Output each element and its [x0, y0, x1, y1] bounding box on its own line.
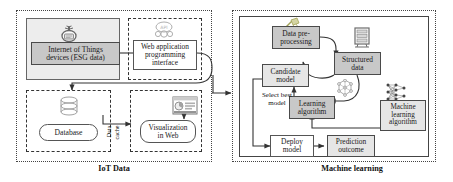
deploy-model-line2: model — [283, 145, 301, 154]
web-api-line3: interface — [152, 58, 178, 67]
caption-iot-data: IoT Data — [66, 164, 162, 173]
network-graph-icon — [336, 79, 354, 97]
edge-iot-panel-to-ml-panel — [212, 75, 231, 93]
iot-devices-line2: devices (ESG data) — [46, 53, 105, 62]
neural-network-icon — [385, 82, 407, 102]
node-iot-devices[interactable]: Internet of Things devices (ESG data) — [31, 42, 120, 65]
iot-device-icon — [57, 21, 81, 43]
structured-data-line2: data — [351, 63, 363, 72]
node-deploy-model[interactable]: Deploy model — [270, 135, 314, 157]
node-web-api[interactable]: Web application programming interface — [133, 40, 197, 70]
data-cache-line2: cache — [113, 125, 120, 139]
learning-algorithm-line2: algorithm — [298, 107, 327, 116]
select-best-line2: model — [268, 99, 286, 107]
api-cloud-icon: API — [151, 20, 177, 40]
prediction-outcome-line2: outcome — [338, 145, 363, 154]
node-prediction-outcome[interactable]: Prediction outcome — [327, 135, 375, 157]
node-data-preprocessing[interactable]: Data pre- processing — [272, 26, 320, 49]
edge-label-cache: cache — [113, 120, 120, 146]
svg-text:API: API — [160, 25, 167, 30]
server-rack-icon — [352, 26, 372, 48]
node-machine-learning-algorithm[interactable]: Machine learning algorithm — [380, 100, 426, 131]
node-visualization[interactable]: Visualization in Web — [140, 120, 196, 143]
candidate-model-line2: model — [276, 75, 294, 84]
edge-label-data: Data — [105, 119, 112, 145]
node-structured-data[interactable]: Structured data — [334, 52, 381, 75]
data-preprocessing-line2: processing — [280, 37, 312, 46]
web-dashboard-icon — [172, 96, 198, 116]
caption-machine-learning: Machine learning — [292, 164, 412, 173]
database-label: Database — [40, 129, 97, 137]
database-cylinder-icon — [58, 96, 80, 120]
visualization-line2: in Web — [158, 131, 179, 140]
node-database[interactable]: Database — [39, 124, 98, 141]
figure-canvas: API — [0, 0, 453, 182]
data-cache-line1: Data — [105, 126, 112, 138]
node-candidate-model[interactable]: Candidate model — [262, 64, 309, 87]
edge-label-select-best-model: Select best model — [253, 92, 301, 107]
ml-algorithm-line3: algorithm — [389, 118, 417, 126]
